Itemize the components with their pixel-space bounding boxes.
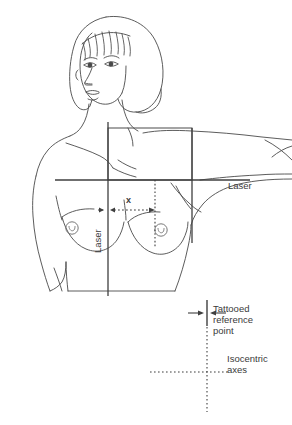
face-outline [80,33,122,104]
label-isocentric-axes: Isocentric axes [227,353,268,375]
breast-right-upper [128,212,160,222]
nipple-marker-right [155,224,167,236]
arm-right-top [143,130,292,140]
neck-right [122,100,138,131]
pupil-left [88,62,93,67]
shoulder-left [36,136,70,176]
abdomen-left-fold [54,268,62,291]
eyebrow-left [84,58,97,60]
eyebrow-right [104,56,119,58]
breast-right [128,222,188,254]
pupil-right [109,61,114,66]
arm-left-inner [50,262,66,291]
arrowhead-into-left [99,208,104,213]
nipple-detail-left [69,226,75,231]
label-distance-x: x [126,195,131,206]
patient-outline-group [33,16,292,291]
nose [85,68,92,85]
clavicle-left [66,143,113,168]
nipple-marker-left [66,222,78,234]
chest-contour-1 [118,160,136,169]
armpit-left [56,196,62,220]
label-tattooed-reference-point: Tattooed reference point [213,303,253,336]
nostril [85,83,92,84]
axilla-fold [171,183,201,212]
radiotherapy-setup-figure: Laser Laser x Tattooed reference point I… [0,0,292,425]
label-laser-vertical: Laser [92,229,103,253]
chest-contour-2 [113,168,136,177]
hair-fringe [83,31,130,60]
torso-left [66,262,68,291]
torso-right [175,225,191,291]
nipple-markers [66,222,167,236]
ear [76,70,78,80]
sternal-notch [128,128,133,146]
hair-right-lobe [136,89,161,113]
breast-left-upper [62,209,94,217]
hair-outline [70,16,163,112]
label-laser-right: Laser [228,180,252,191]
face-jaw [122,66,126,93]
mouth-upper [86,91,99,93]
arm-right-elbow-line [265,140,292,160]
nipple-detail-right [158,228,164,233]
arm-left-outer [33,176,50,291]
arrowhead-tattoo-left [198,311,204,316]
x-distance-arrow [98,207,155,212]
